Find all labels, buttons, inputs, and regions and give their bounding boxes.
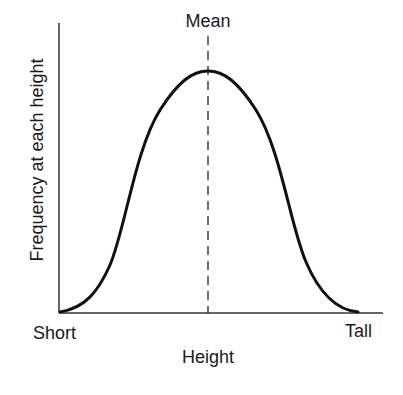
x-max-label: Tall [345,322,372,340]
mean-label: Mean [185,12,230,30]
y-axis-title: Frequency at each height [28,58,46,261]
x-axis-title: Height [182,348,234,366]
x-min-label: Short [33,324,76,342]
distribution-curve [60,71,358,312]
